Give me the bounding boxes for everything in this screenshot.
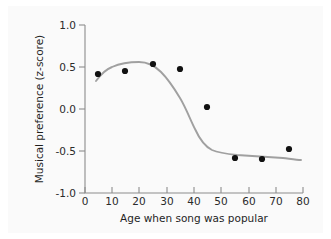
data-points xyxy=(95,61,292,162)
x-tick-label: 60 xyxy=(242,195,255,207)
y-tick-label: 0.0 xyxy=(59,103,76,115)
x-tick-label: 80 xyxy=(296,195,309,207)
x-tick-label: 20 xyxy=(132,195,145,207)
data-point xyxy=(232,155,238,161)
data-point xyxy=(204,104,210,110)
scatter-plot: 1.0 0.5 0.0 -0.5 -1.0 0 10 20 30 40 50 xyxy=(0,0,331,239)
fitted-curve xyxy=(96,62,301,160)
data-point xyxy=(150,61,156,67)
x-tick-label: 40 xyxy=(187,195,200,207)
y-tick-label: -1.0 xyxy=(56,187,77,199)
y-tick-labels: 1.0 0.5 0.0 -0.5 -1.0 xyxy=(56,19,77,199)
figure-container: 1.0 0.5 0.0 -0.5 -1.0 0 10 20 30 40 50 xyxy=(0,0,331,239)
data-point xyxy=(259,156,265,162)
axis-lines xyxy=(85,25,303,193)
x-tick-label: 0 xyxy=(82,195,89,207)
x-axis-title: Age when song was popular xyxy=(120,212,268,224)
x-tick-label: 70 xyxy=(269,195,282,207)
x-tick-label: 30 xyxy=(160,195,173,207)
x-tick-labels: 0 10 20 30 40 50 60 70 80 xyxy=(82,195,310,207)
x-tick-marks xyxy=(85,187,303,193)
data-point xyxy=(122,68,128,74)
data-point xyxy=(286,146,292,152)
x-tick-label: 50 xyxy=(214,195,227,207)
y-tick-marks xyxy=(79,25,85,193)
y-tick-label: -0.5 xyxy=(56,145,77,157)
x-tick-label: 10 xyxy=(105,195,118,207)
y-tick-label: 0.5 xyxy=(59,61,76,73)
y-tick-label: 1.0 xyxy=(59,19,76,31)
data-point xyxy=(95,71,101,77)
y-axis-title: Musical preference (z-score) xyxy=(33,35,45,183)
data-point xyxy=(177,66,183,72)
